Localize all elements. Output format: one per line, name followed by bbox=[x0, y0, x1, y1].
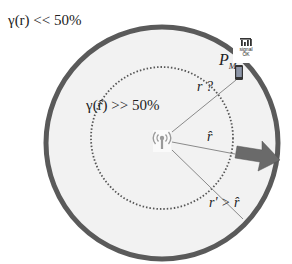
signal-ok-text: signal OK bbox=[236, 47, 256, 57]
r-prime-compare-label: r' > r̂ bbox=[209, 196, 239, 210]
mobile-label-p: P bbox=[219, 51, 229, 68]
r-hat-label: r̂ bbox=[207, 130, 212, 144]
signal-text-line2: OK bbox=[236, 52, 256, 57]
coverage-diagram bbox=[0, 0, 292, 264]
r-unknown-label: r ? bbox=[197, 80, 213, 94]
mobile-label: PM bbox=[219, 52, 236, 71]
inner-condition-label: γ(r̂) >> 50% bbox=[86, 98, 160, 113]
antenna-broadcast-icon bbox=[153, 130, 171, 152]
mobile-label-subscript: M bbox=[229, 61, 237, 71]
outer-condition-label: γ(r) << 50% bbox=[8, 13, 82, 28]
